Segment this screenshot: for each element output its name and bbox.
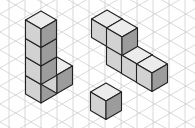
isometric-diagram bbox=[0, 0, 195, 128]
shape-l-tower bbox=[26, 11, 73, 103]
isometric-canvas bbox=[0, 0, 195, 128]
shape-single-cube bbox=[91, 83, 122, 120]
cube-shapes bbox=[26, 10, 168, 120]
cube bbox=[91, 83, 122, 120]
